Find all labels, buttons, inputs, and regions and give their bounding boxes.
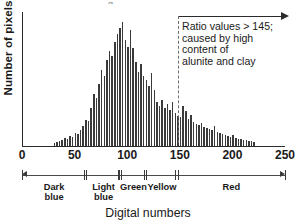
histogram-bar xyxy=(82,126,84,146)
histogram-bar xyxy=(111,56,113,146)
ruler-boundary-tick xyxy=(121,170,122,180)
histogram-bar xyxy=(140,64,142,146)
ruler-boundary-tick xyxy=(118,170,119,180)
histogram-bar xyxy=(243,140,245,146)
histogram-bar xyxy=(164,108,166,146)
annotation-line: Ratio values > 145; xyxy=(182,21,294,33)
histogram-bar xyxy=(227,136,229,146)
histogram-bar xyxy=(77,134,79,146)
histogram-bar xyxy=(61,140,63,146)
histogram-bar xyxy=(253,142,255,146)
histogram-bar xyxy=(56,142,58,146)
histogram-bar xyxy=(251,141,253,146)
histogram-bar xyxy=(130,30,132,146)
histogram-bar xyxy=(122,22,124,146)
arrow-shaft xyxy=(178,16,281,17)
ruler-boundary-tick xyxy=(285,170,286,180)
class-label: Red xyxy=(223,182,241,192)
histogram-bar xyxy=(188,119,190,146)
x-tick-label: 100 xyxy=(117,148,137,162)
arrow-head-icon xyxy=(281,12,289,20)
x-tick-label: 250 xyxy=(275,148,295,162)
histogram-bar xyxy=(172,102,174,146)
ruler-line xyxy=(22,175,285,176)
histogram-bar xyxy=(132,48,134,146)
histogram-bar xyxy=(222,134,224,146)
histogram-bar xyxy=(156,102,158,146)
histogram-bar xyxy=(167,104,169,146)
histogram-bar xyxy=(240,139,242,146)
class-label-line: Yellow xyxy=(147,182,176,192)
y-axis-title: Number of pixels xyxy=(2,0,14,118)
histogram-bar xyxy=(235,138,237,146)
histogram-bar xyxy=(159,106,161,146)
histogram-bar xyxy=(201,123,203,146)
histogram-bar xyxy=(106,60,108,146)
x-tick-label: 150 xyxy=(170,148,190,162)
histogram-bar xyxy=(148,86,150,146)
histogram-bar xyxy=(109,51,111,146)
ruler-boundary-tick xyxy=(146,170,147,180)
histogram-bar xyxy=(127,47,129,146)
x-axis-title: Digital numbers xyxy=(0,206,296,220)
histogram-bar xyxy=(175,113,177,146)
histogram-bar xyxy=(211,130,213,146)
histogram-bar xyxy=(193,122,195,146)
histogram-bar xyxy=(161,100,163,146)
histogram-bar xyxy=(90,108,92,146)
histogram-bar xyxy=(54,143,56,146)
class-label: Green xyxy=(120,182,147,192)
histogram-bar xyxy=(146,80,148,146)
cropped-text-artifact: g xyxy=(108,0,126,4)
histogram-bar xyxy=(64,138,66,146)
class-ruler-labels: DarkblueLightblueGreenYellowRed xyxy=(0,182,296,206)
histogram-figure: g Number of pixels Ratio values > 145;ca… xyxy=(0,0,296,224)
histogram-bar xyxy=(117,34,119,146)
histogram-bar xyxy=(67,139,69,146)
histogram-bar xyxy=(217,132,219,146)
histogram-bar xyxy=(190,115,192,146)
histogram-bar xyxy=(206,128,208,146)
histogram-bar xyxy=(246,140,248,146)
x-tick-label: 50 xyxy=(68,148,81,162)
histogram-bar xyxy=(180,117,182,146)
histogram-bar xyxy=(169,110,171,146)
histogram-bar xyxy=(219,133,221,146)
histogram-bar xyxy=(232,135,234,146)
class-label: Darkblue xyxy=(44,182,65,203)
ruler-boundary-tick xyxy=(178,170,179,180)
annotation-line: alunite and clay xyxy=(182,56,294,68)
ruler-boundary-tick xyxy=(144,170,145,180)
class-label-line: Green xyxy=(120,182,147,192)
ruler-boundary-tick xyxy=(22,170,23,180)
ruler-boundary-tick xyxy=(175,170,176,180)
histogram-bar xyxy=(238,139,240,146)
histogram-bar xyxy=(182,106,184,146)
histogram-bar xyxy=(101,70,103,146)
histogram-bar xyxy=(85,120,87,146)
histogram-bar xyxy=(125,40,127,146)
histogram-bar xyxy=(151,73,153,146)
threshold-dashed-line xyxy=(178,16,179,143)
x-tick-label: 200 xyxy=(222,148,242,162)
x-axis-tick-labels: 050100150200250 xyxy=(0,148,296,164)
histogram-bar xyxy=(203,127,205,146)
histogram-bar xyxy=(248,141,250,146)
histogram-bar xyxy=(185,111,187,146)
ruler-boundary-tick xyxy=(86,170,87,180)
histogram-bar xyxy=(143,76,145,146)
histogram-bar xyxy=(96,98,98,146)
histogram-bar xyxy=(154,90,156,146)
histogram-bar xyxy=(80,130,82,146)
ratio-annotation-text: Ratio values > 145;caused by highcontent… xyxy=(182,21,294,67)
histogram-bar xyxy=(98,84,100,146)
histogram-bar xyxy=(104,76,106,146)
class-label-line: Dark xyxy=(44,182,65,192)
class-label: Yellow xyxy=(147,182,176,192)
histogram-bar xyxy=(230,137,232,146)
histogram-bar xyxy=(225,135,227,146)
histogram-bar xyxy=(214,126,216,146)
ruler-boundary-tick xyxy=(84,170,85,180)
class-label-line: blue xyxy=(44,192,65,202)
histogram-bar xyxy=(135,62,137,146)
